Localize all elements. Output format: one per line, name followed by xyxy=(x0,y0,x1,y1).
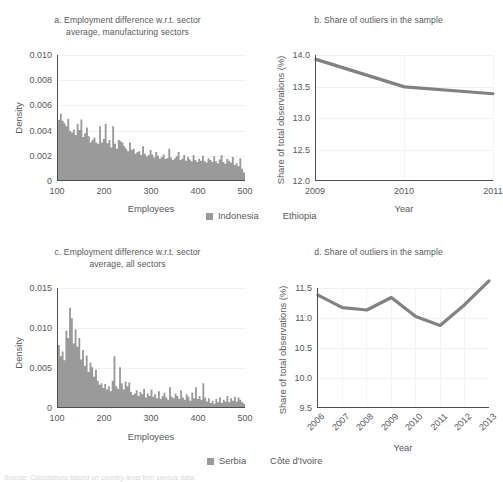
panel-d-ytick: 11.0 xyxy=(295,314,312,323)
legend-label-ethiopia: Ethiopia xyxy=(283,211,317,221)
panel-a-xtick: 200 xyxy=(96,187,111,196)
panel-b-y-axis xyxy=(315,55,316,181)
panel-c-title: c. Employment difference w.r.t. sector a… xyxy=(0,246,255,270)
panel-d-xtick: 2008 xyxy=(355,412,376,433)
panel-b-ytick: 13.0 xyxy=(292,114,310,123)
panel-c-ytick: 0.010 xyxy=(29,324,52,333)
panel-c-xtick: 300 xyxy=(143,414,158,423)
panel-c-xtick: 500 xyxy=(237,414,252,423)
panel-b: b. Share of outliers in the sample Share… xyxy=(255,8,502,234)
panel-b-line xyxy=(316,55,493,180)
panel-a-xtick: 400 xyxy=(190,187,205,196)
panel-d-xlabel: Year xyxy=(317,443,489,453)
panel-a-title: a. Employment difference w.r.t. sector a… xyxy=(0,14,255,38)
panel-d-ylabel: Share of total observations (%) xyxy=(278,280,288,420)
panel-c-ylabel: Density xyxy=(14,323,24,383)
panel-c-ytick: 0.015 xyxy=(29,284,52,293)
legend-top: Indonesia Ethiopia xyxy=(206,211,317,221)
panel-c-histogram xyxy=(58,288,245,407)
panel-b-ytick: 12.5 xyxy=(292,145,310,154)
legend-label-cote-divoire: Côte d'Ivoire xyxy=(270,456,322,466)
source-note: Source: Calculations based on country-le… xyxy=(4,474,196,482)
panel-c-ytick: 0.005 xyxy=(29,364,52,373)
panel-d-line xyxy=(318,288,489,407)
panel-a-ytick: 0.008 xyxy=(29,76,52,85)
panel-d-ytick: 11.5 xyxy=(295,284,312,293)
panel-c-y-axis xyxy=(57,288,58,408)
panel-a-histogram xyxy=(58,55,245,180)
panel-c-plot-area: 0.015 0.010 0.005 0 100 200 300 400 500 xyxy=(57,288,245,408)
panel-d-ytick: 10.5 xyxy=(294,344,312,353)
panel-a-x-axis xyxy=(57,180,245,181)
panel-d-y-axis xyxy=(317,288,318,408)
panel-a-ytick: 0.010 xyxy=(29,51,52,60)
panel-b-ytick: 14.0 xyxy=(292,51,310,60)
panel-a-xtick: 300 xyxy=(143,187,158,196)
panel-a-ytick: 0 xyxy=(47,177,52,186)
panel-b-title: b. Share of outliers in the sample xyxy=(255,14,502,26)
panel-b-ytick: 13.5 xyxy=(292,82,310,91)
panel-b-xtick: 2010 xyxy=(394,187,414,196)
panel-d-x-axis xyxy=(317,407,489,408)
panel-d-xtick: 2006 xyxy=(306,412,327,433)
panel-a-ytick: 0.004 xyxy=(29,126,52,135)
panel-c-x-axis xyxy=(57,407,245,408)
gridline-v xyxy=(493,55,494,181)
panel-a-ytick: 0.002 xyxy=(29,151,52,160)
panel-c-xtick: 100 xyxy=(49,414,64,423)
legend-item-indonesia: Indonesia xyxy=(206,211,259,221)
panel-c-ytick: 0 xyxy=(47,404,52,413)
panel-b-xtick: 2011 xyxy=(483,187,502,196)
panel-d-ytick: 10.0 xyxy=(294,374,312,383)
panel-d-xtick: 2007 xyxy=(330,412,351,433)
panel-d: d. Share of outliers in the sample Share… xyxy=(255,240,502,466)
panel-a-xtick: 100 xyxy=(49,187,64,196)
panel-b-title-line1: b. Share of outliers in the sample xyxy=(255,14,502,26)
panel-d-plot-area: 11.5 11.0 10.5 10.0 9.5 2006 2007 2008 2… xyxy=(317,288,489,408)
panel-b-ytick: 12.0 xyxy=(292,177,310,186)
panel-c: c. Employment difference w.r.t. sector a… xyxy=(0,240,255,466)
panel-b-plot-area: 14.0 13.5 13.0 12.5 12.0 2009 2010 2011 xyxy=(315,55,493,181)
panel-d-ytick: 9.5 xyxy=(299,404,312,413)
panel-b-ylabel: Share of total observations (%) xyxy=(276,50,286,190)
panel-c-xlabel: Employees xyxy=(57,432,245,442)
panel-a-title-line1: a. Employment difference w.r.t. sector xyxy=(0,14,255,26)
panel-d-xtick: 2010 xyxy=(404,412,425,433)
panel-b-xlabel: Year xyxy=(315,204,493,214)
panel-d-xtick: 2013 xyxy=(477,412,498,433)
panel-b-xtick: 2009 xyxy=(305,187,325,196)
panel-c-title-line1: c. Employment difference w.r.t. sector xyxy=(0,246,255,258)
panel-a-y-axis xyxy=(57,55,58,181)
panel-d-xtick: 2012 xyxy=(453,412,474,433)
panel-c-xtick: 400 xyxy=(190,414,205,423)
legend-item-serbia: Serbia xyxy=(207,456,246,466)
legend-label-indonesia: Indonesia xyxy=(218,211,259,221)
legend-item-ethiopia: Ethiopia xyxy=(283,211,317,221)
legend-swatch-square-icon xyxy=(206,213,213,220)
legend-label-serbia: Serbia xyxy=(219,456,246,466)
panel-a-title-line2: average, manufacturing sectors xyxy=(0,26,255,38)
panel-a-xtick: 500 xyxy=(237,187,252,196)
panel-d-xtick: 2011 xyxy=(429,412,449,432)
legend-bottom: Serbia Côte d'Ivoire xyxy=(207,456,322,466)
panel-c-xtick: 200 xyxy=(96,414,111,423)
panel-a-ytick: 0.006 xyxy=(29,101,52,110)
panel-b-x-axis xyxy=(315,180,493,181)
panel-a-plot-area: 0.010 0.008 0.006 0.004 0.002 0 100 200 … xyxy=(57,55,245,181)
panel-a: a. Employment difference w.r.t. sector a… xyxy=(0,8,255,234)
panel-d-title-line1: d. Share of outliers in the sample xyxy=(255,246,502,258)
panel-c-title-line2: average, all sectors xyxy=(0,258,255,270)
panel-d-title: d. Share of outliers in the sample xyxy=(255,246,502,258)
legend-item-cote-divoire: Côte d'Ivoire xyxy=(270,456,322,466)
panel-a-ylabel: Density xyxy=(14,88,24,148)
panel-d-xtick: 2009 xyxy=(379,412,400,433)
legend-swatch-square-icon xyxy=(207,458,214,465)
